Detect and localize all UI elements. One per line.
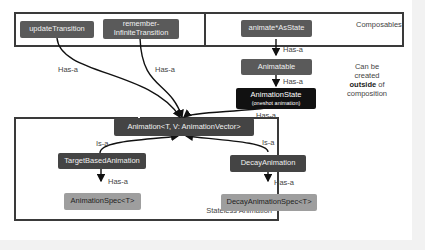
- edge-label-has-a: Has-a: [108, 177, 128, 186]
- node-decay-animation: DecayAnimation: [230, 155, 306, 172]
- edge-label-has-a: Has-a: [274, 178, 294, 187]
- node-animatable: Animatable: [241, 59, 312, 75]
- edge-label-has-a: Has-a: [155, 65, 175, 74]
- node-animation: Animation<T, V: AnimationVector>: [114, 118, 254, 136]
- node-decay-animation-spec: DecayAnimationSpec<T>: [221, 194, 317, 211]
- edge-label-has-a: Has-a: [256, 111, 276, 120]
- diagram-canvas: Composables Stateless Animation Can be c…: [0, 0, 412, 240]
- node-target-based-animation: TargetBasedAnimation: [58, 153, 146, 169]
- edge-label-has-a: Has-a: [283, 45, 303, 54]
- node-remember-infinite-transition: remember- InfiniteTransition: [103, 19, 179, 39]
- edge-label-is-a: Is-a: [262, 138, 275, 147]
- node-animate-as-state: animate*AsState: [241, 20, 312, 37]
- node-animation-spec: AnimationSpec<T>: [64, 193, 141, 210]
- node-update-transition: updateTransition: [20, 21, 94, 38]
- node-animation-state: AnimationState (oneshot animation): [236, 88, 316, 109]
- edge-label-is-a: Is-a: [96, 139, 109, 148]
- edge-label-has-a: Has-a: [283, 77, 303, 86]
- edge-label-has-a: Has-a: [58, 65, 78, 74]
